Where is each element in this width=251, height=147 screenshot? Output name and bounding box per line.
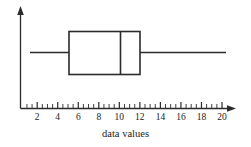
x-axis-tick-label: 16	[171, 112, 191, 122]
x-axis-tick-label: 2	[27, 112, 47, 122]
x-axis-caption: data values	[0, 128, 251, 140]
x-axis-tick-label: 8	[89, 112, 109, 122]
x-axis-tick-label: 6	[68, 112, 88, 122]
x-axis-tick-label: 20	[212, 112, 232, 122]
boxplot-figure: 2468101214161820 data values	[0, 0, 251, 147]
x-axis-tick-label: 4	[48, 112, 68, 122]
x-axis-tick-label: 10	[109, 112, 129, 122]
x-axis-tick-label: 14	[150, 112, 170, 122]
x-axis-tick-label: 18	[191, 112, 211, 122]
x-axis-arrow-icon	[227, 105, 236, 111]
box-iqr	[69, 32, 140, 75]
boxplot-canvas	[0, 0, 251, 147]
y-axis-arrow-icon	[17, 6, 24, 15]
x-axis-tick-label: 12	[130, 112, 150, 122]
x-axis-ticks	[27, 102, 222, 109]
